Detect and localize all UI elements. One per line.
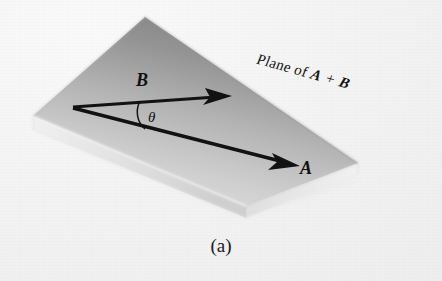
plane-caption-vector-a: A (308, 66, 324, 84)
vector-label-B: B (136, 71, 148, 89)
figure-canvas: B A θ Plane of A + B (a) (0, 0, 442, 281)
vector-label-A: A (300, 159, 312, 177)
plane-caption-operator: + (322, 70, 338, 88)
angle-label-theta: θ (148, 110, 155, 125)
figure-caption: (a) (0, 236, 442, 255)
